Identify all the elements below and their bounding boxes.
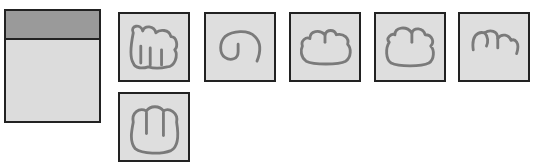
spiral-hook-icon (206, 14, 274, 80)
preview-panel-header (6, 11, 99, 40)
shape-card-4[interactable] (374, 12, 446, 82)
shape-card-1[interactable] (118, 12, 190, 82)
shape-card-2[interactable] (204, 12, 276, 82)
preview-panel (4, 9, 101, 123)
cloud-shape-icon (291, 14, 359, 80)
three-arches-icon (460, 14, 528, 80)
fist-front-icon (120, 94, 188, 160)
shape-card-6[interactable] (118, 92, 190, 162)
shape-card-5[interactable] (458, 12, 530, 82)
shape-card-3[interactable] (289, 12, 361, 82)
fist-side-icon (120, 14, 188, 80)
cloud-shape-icon (376, 14, 444, 80)
